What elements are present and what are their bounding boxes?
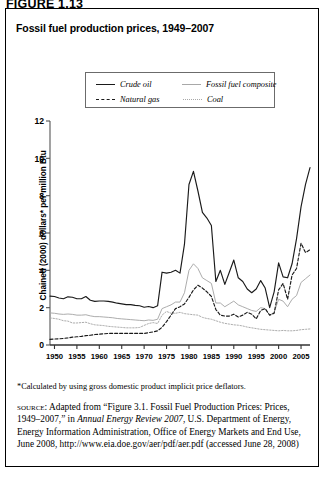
y-tick-label: 6 xyxy=(39,228,44,238)
series-line-natural-gas xyxy=(50,243,310,339)
legend-row: Crude oil Fossil fuel composite xyxy=(86,77,274,91)
legend-swatch-natural-gas-icon xyxy=(96,99,115,100)
x-tick-label: 1995 xyxy=(248,352,266,361)
source-kicker: source: xyxy=(17,401,47,412)
legend-label-coal: Coal xyxy=(207,95,223,104)
y-tick-label: 4 xyxy=(39,266,44,276)
x-tick-label: 1985 xyxy=(203,352,221,361)
footnote: *Calculated by using gross domestic prod… xyxy=(17,381,317,392)
legend-label-natural-gas: Natural gas xyxy=(120,95,159,104)
x-tick-label: 1970 xyxy=(136,352,153,361)
x-tick-label: 1975 xyxy=(158,352,176,361)
y-tick-label: 0 xyxy=(39,340,44,350)
x-tick-label: 2005 xyxy=(292,352,310,361)
legend-row: Natural gas Coal xyxy=(86,92,274,106)
source-italic-1: Annual Energy Review 2007 xyxy=(77,414,183,424)
y-tick-label: 10 xyxy=(34,154,44,164)
chart-legend: Crude oil Fossil fuel composite Natural … xyxy=(85,72,275,108)
x-tick-label: 1980 xyxy=(180,352,197,361)
figure-label: FIGURE 1.13 xyxy=(6,0,83,8)
y-tick-label: 12 xyxy=(34,117,44,126)
x-tick-label: 1965 xyxy=(113,352,131,361)
legend-item-fossil-fuel-composite: Fossil fuel composite xyxy=(180,77,274,91)
x-tick-label: 2000 xyxy=(270,352,287,361)
legend-swatch-crude-oil-icon xyxy=(96,84,115,85)
y-tick-label: 2 xyxy=(39,303,44,313)
legend-item-natural-gas: Natural gas xyxy=(86,92,181,106)
legend-item-coal: Coal xyxy=(181,92,274,106)
figure-container: Fossil fuel production prices, 1949–2007… xyxy=(5,8,319,467)
legend-item-crude-oil: Crude oil xyxy=(86,77,180,91)
x-tick-label: 1990 xyxy=(225,352,242,361)
legend-swatch-coal-icon xyxy=(183,99,202,100)
plot-area: Chained (2000) dollars* per million Btu … xyxy=(16,117,318,369)
legend-label-crude-oil: Crude oil xyxy=(120,80,152,89)
x-tick-label: 1950 xyxy=(46,352,63,361)
y-tick-label: 8 xyxy=(39,191,44,201)
chart-title: Fossil fuel production prices, 1949–2007 xyxy=(16,22,214,34)
source-note: source: Adapted from “Figure 3.1. Fossil… xyxy=(17,401,313,451)
legend-label-fossil-fuel-composite: Fossil fuel composite xyxy=(206,80,277,89)
legend-swatch-fossil-fuel-composite-icon xyxy=(182,84,201,85)
series-line-crude-oil xyxy=(50,168,310,308)
line-chart-svg: 0246810121950195519601965197019751980198… xyxy=(16,117,318,369)
x-tick-label: 1955 xyxy=(68,352,86,361)
x-tick-label: 1960 xyxy=(91,352,108,361)
